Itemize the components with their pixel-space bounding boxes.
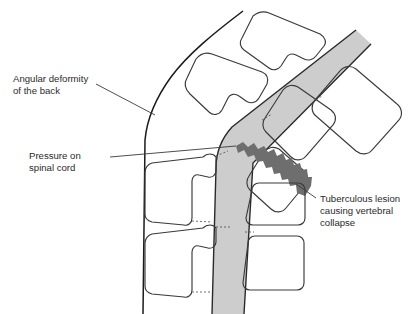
label-pressure-spinal-cord-line1: Pressure on	[29, 150, 81, 161]
lower-vertebrae-left-group	[145, 154, 216, 297]
diagram-canvas: Angular deformity of the back Pressure o…	[0, 0, 417, 314]
vertebra-upper-1	[240, 12, 325, 70]
spinal-tuberculosis-diagram: Angular deformity of the back Pressure o…	[0, 0, 417, 314]
label-tuberculous-lesion-line1: Tuberculous lesion	[320, 193, 400, 204]
disc-mark-3	[192, 221, 212, 222]
label-tuberculous-lesion: Tuberculous lesion causing vertebral col…	[320, 193, 400, 228]
vertebra-lower-left-2	[145, 225, 216, 297]
label-pressure-spinal-cord: Pressure on spinal cord	[29, 150, 81, 173]
vertebra-upper-2	[185, 53, 267, 114]
leader-angular-deformity	[96, 84, 155, 115]
label-tuberculous-lesion-line3: collapse	[320, 217, 355, 228]
label-tuberculous-lesion-line2: causing vertebral	[320, 205, 393, 216]
label-pressure-spinal-cord-line2: spinal cord	[29, 162, 75, 173]
vertebra-lower-right-1	[246, 183, 305, 225]
label-angular-deformity-line2: of the back	[13, 85, 60, 96]
vertebra-lower-right-2	[243, 236, 304, 290]
vertebra-lower-left-1	[145, 154, 216, 225]
label-angular-deformity: Angular deformity of the back	[13, 73, 88, 96]
lower-vertebrae-right-group	[243, 183, 305, 290]
label-angular-deformity-line1: Angular deformity	[13, 73, 88, 84]
